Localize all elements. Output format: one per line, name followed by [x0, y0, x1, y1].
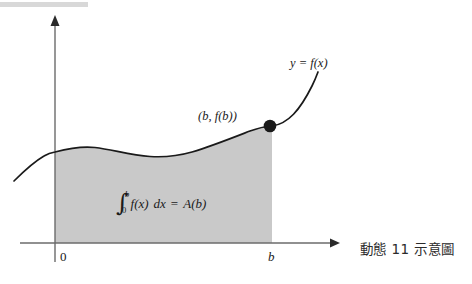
x-axis-arrowhead: [330, 239, 340, 248]
integral-formula: ∫ b 0 f(x) dx = A(b): [116, 193, 206, 213]
equals-sign: =: [171, 197, 178, 210]
differential: dx: [154, 197, 166, 210]
curve-label: y = f(x): [290, 57, 328, 70]
y-axis-arrowhead: [51, 15, 60, 26]
integral-lower-limit: 0: [122, 207, 126, 214]
figure-container: y = f(x) (b, f(b)) 0 b ∫ b 0 f(x) dx = A…: [0, 0, 472, 284]
integral-upper-limit: b: [125, 191, 129, 198]
point-marker-b-fb: [264, 120, 277, 133]
area-function-result: A(b): [183, 197, 206, 210]
figure-caption: 動態 11 示意圖: [360, 243, 454, 257]
x-axis-tick-label-b: b: [268, 250, 275, 263]
point-label: (b, f(b)): [198, 110, 237, 123]
integrand: f(x): [131, 197, 149, 210]
x-axis-tick-label-origin: 0: [60, 250, 67, 263]
integral-sign: ∫ b 0: [116, 193, 129, 213]
shaded-area-under-curve: [55, 126, 272, 243]
